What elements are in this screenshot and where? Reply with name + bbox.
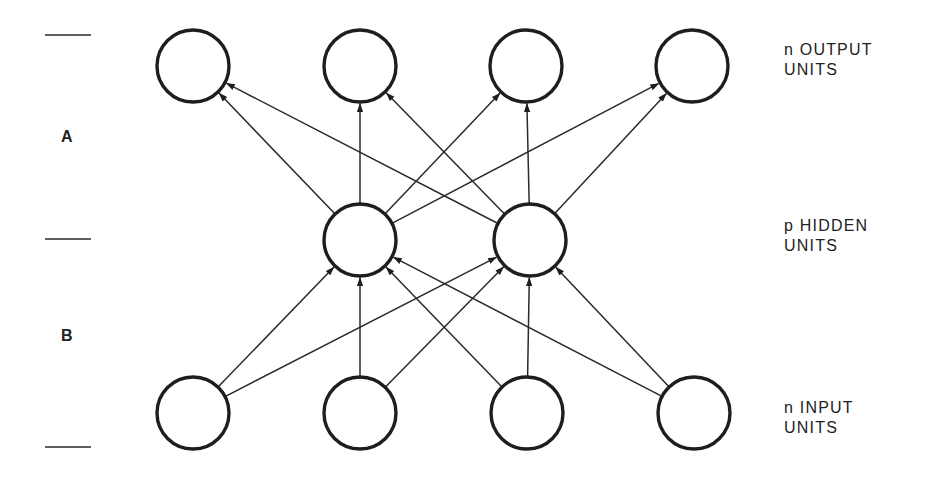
- output-units-label-line1: n OUTPUT: [784, 40, 873, 60]
- hidden-units-label: p HIDDEN UNITS: [784, 216, 868, 256]
- connection-arrow-hidden-0-to-output-0: [219, 93, 335, 214]
- output-units-label-line2: UNITS: [784, 60, 873, 80]
- input-unit-0: [157, 377, 229, 449]
- section-label-b: B: [61, 327, 73, 345]
- units: [157, 30, 730, 449]
- output-unit-0: [157, 30, 229, 102]
- connection-arrow-hidden-1-to-output-2: [527, 104, 529, 205]
- input-units-label: n INPUT UNITS: [784, 398, 854, 438]
- connections: [218, 83, 669, 396]
- output-unit-3: [656, 30, 728, 102]
- output-units-label: n OUTPUT UNITS: [784, 40, 873, 80]
- input-unit-2: [491, 377, 563, 449]
- section-label-a: A: [61, 128, 73, 146]
- input-unit-3: [658, 377, 730, 449]
- connection-arrow-input-0-to-hidden-0: [218, 267, 334, 387]
- hidden-units-label-line1: p HIDDEN: [784, 216, 868, 236]
- input-units-label-line2: UNITS: [784, 418, 854, 438]
- hidden-unit-0: [324, 204, 396, 276]
- output-unit-1: [324, 30, 396, 102]
- connection-arrow-hidden-1-to-output-3: [555, 93, 667, 213]
- hidden-unit-1: [494, 204, 566, 276]
- hidden-units-label-line2: UNITS: [784, 236, 868, 256]
- input-units-label-line1: n INPUT: [784, 398, 854, 418]
- input-unit-1: [324, 377, 396, 449]
- connection-arrow-hidden-0-to-output-3: [392, 83, 659, 223]
- output-unit-2: [490, 30, 562, 102]
- section-ticks: [45, 35, 91, 447]
- connection-arrow-hidden-0-to-output-2: [385, 93, 500, 214]
- connection-arrow-input-3-to-hidden-1: [556, 267, 669, 387]
